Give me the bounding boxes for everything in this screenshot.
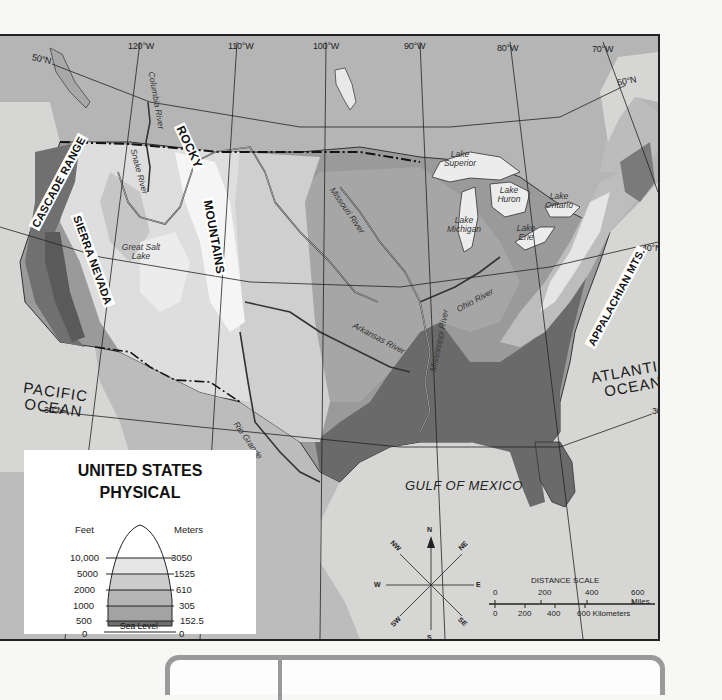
longitude-label-80w: 80°W	[497, 43, 518, 53]
label-lake-ontario: Lake Ontario	[542, 192, 576, 210]
scale-km-400: 400	[547, 609, 560, 618]
bottom-panel-divider	[278, 660, 282, 700]
legend-meters-610: 610	[176, 584, 192, 595]
latitude-label-30n-east: 30°N	[652, 406, 660, 416]
scale-miles-400: 400	[585, 588, 598, 597]
legend-feet-0: 0	[82, 628, 87, 639]
scale-title: DISTANCE SCALE	[531, 576, 599, 585]
legend-meters-header: Meters	[174, 524, 203, 535]
compass-rose: N NE E SE S SW W NW	[370, 526, 490, 641]
legend-feet-5000: 5000	[77, 568, 98, 579]
label-lake-huron: Lake Huron	[494, 186, 524, 204]
legend-feet-500: 500	[76, 615, 92, 626]
longitude-label-90w: 90°W	[404, 41, 425, 51]
legend-meters-305: 305	[179, 600, 195, 611]
compass-s: S	[427, 634, 432, 641]
legend-meters-1525: 1525	[174, 568, 195, 579]
label-lake-superior: Lake Superior	[440, 150, 480, 168]
legend-feet-1000: 1000	[73, 600, 94, 611]
longitude-label-100w: 100°W	[313, 41, 339, 51]
longitude-label-70w: 70°W	[592, 44, 613, 54]
legend-meters-3050: 3050	[171, 552, 192, 563]
map-legend: UNITED STATES PHYSICAL Feet Meters 10,	[24, 450, 256, 634]
elevation-key-graphic	[24, 450, 256, 634]
scale-km-600: 600 Kilometers	[577, 609, 630, 618]
legend-meters-152-5: 152.5	[180, 615, 204, 626]
scale-miles-200: 200	[538, 588, 551, 597]
distance-scale: DISTANCE SCALE 0 200 400 600 Miles 0 200…	[485, 576, 660, 626]
longitude-label-110w: 110°W	[228, 41, 253, 51]
label-gulf-of-mexico: GULF OF MEXICO	[405, 478, 523, 493]
longitude-label-120w: 120°W	[128, 41, 154, 51]
bottom-panel	[165, 655, 665, 695]
scale-km-0: 0	[493, 609, 497, 618]
label-lake-erie: Lake Erie	[513, 224, 539, 242]
scale-km-200: 200	[518, 609, 531, 618]
scale-bar	[485, 598, 660, 610]
compass-e: E	[476, 581, 481, 588]
label-great-salt-lake: Great Salt Lake	[118, 243, 164, 261]
scale-miles-0: 0	[493, 588, 497, 597]
label-lake-michigan: Lake Michigan	[442, 216, 486, 234]
legend-feet-10000: 10,000	[70, 552, 99, 563]
legend-feet-2000: 2000	[74, 584, 95, 595]
legend-feet-header: Feet	[75, 524, 94, 535]
legend-sea-level-label: Sea Level	[120, 621, 158, 631]
compass-w: W	[374, 581, 381, 588]
compass-n: N	[427, 526, 432, 533]
legend-meters-0: 0	[179, 628, 184, 639]
